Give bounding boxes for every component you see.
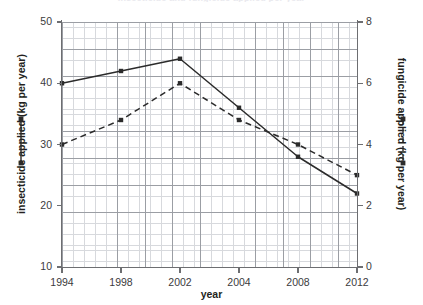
y-axis-left-tick — [57, 83, 62, 84]
y-axis-right-tick-label: 6 — [366, 76, 392, 88]
x-axis-tick-label: 2008 — [274, 276, 322, 288]
x-axis-tick-label: 1994 — [38, 276, 86, 288]
y-axis-right-tick — [358, 205, 363, 206]
data-point-marker — [119, 69, 123, 73]
y-axis-right-tick — [358, 83, 363, 84]
x-axis-line — [61, 267, 358, 268]
y-axis-left-tick — [57, 205, 62, 206]
y-axis-left-tick-label: 10 — [26, 260, 52, 272]
series-line — [62, 59, 357, 194]
y-axis-left-tick-label: 40 — [26, 76, 52, 88]
y-axis-left-tick-label: 30 — [26, 138, 52, 150]
x-axis-tick — [179, 268, 180, 273]
y-axis-right-tick-label: 0 — [366, 260, 392, 272]
y-axis-left-tick-label: 20 — [26, 199, 52, 211]
series-line — [62, 83, 357, 175]
x-axis-tick-label: 2012 — [333, 276, 381, 288]
x-axis-tick-label: 1998 — [97, 276, 145, 288]
legend-key-insecticide — [14, 115, 28, 167]
chart-container: insecticide and fungicide applied per ye… — [0, 0, 423, 305]
y-axis-right-tick-label: 4 — [366, 138, 392, 150]
y-axis-right-tick — [358, 266, 363, 267]
x-axis-tick — [238, 268, 239, 273]
x-axis-tick — [356, 268, 357, 273]
series-layer — [62, 22, 357, 267]
x-axis-tick-label: 2002 — [156, 276, 204, 288]
plot-area — [62, 22, 357, 267]
x-axis-tick — [61, 268, 62, 273]
data-point-marker — [119, 118, 123, 122]
chart-title: insecticide and fungicide applied per ye… — [0, 0, 423, 2]
x-axis-tick-label: 2004 — [215, 276, 263, 288]
data-point-marker — [237, 106, 241, 110]
x-axis-tick — [297, 268, 298, 273]
legend-key-fungicide — [396, 115, 410, 167]
data-point-marker — [237, 118, 241, 122]
data-point-marker — [178, 57, 182, 61]
x-axis-tick — [120, 268, 121, 273]
data-point-marker — [296, 142, 300, 146]
y-axis-left-tick-label: 50 — [26, 15, 52, 27]
y-axis-right-tick — [358, 144, 363, 145]
y-axis-right-tick — [358, 21, 363, 22]
y-axis-left-tick — [57, 144, 62, 145]
y-axis-right-tick-label: 8 — [366, 15, 392, 27]
y-axis-right-tick-label: 2 — [366, 199, 392, 211]
x-axis-title: year — [0, 288, 423, 300]
data-point-marker — [178, 81, 182, 85]
y-axis-left-tick — [57, 21, 62, 22]
data-point-marker — [296, 155, 300, 159]
